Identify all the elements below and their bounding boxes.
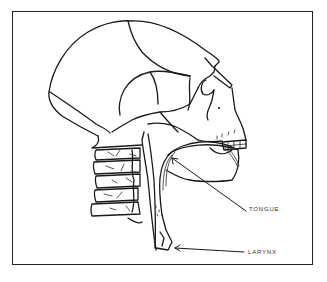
cranium-outline [49,21,219,92]
label-larynx: LARYNX [248,249,277,255]
label-tongue: TONGUE [249,206,279,212]
tongue-leader-line [172,158,246,211]
larynx-leader-line [175,248,244,252]
cervical-vertebrae [91,136,142,223]
tongue-outline [160,145,232,215]
skull-diagram [0,0,327,282]
